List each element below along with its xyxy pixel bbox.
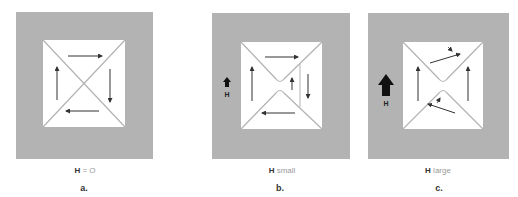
panel-b: H: [212, 13, 350, 159]
caption-text: = O: [80, 166, 95, 175]
panel-c: H: [368, 13, 509, 159]
caption-c: H large: [425, 166, 451, 175]
panel-a: [16, 12, 153, 159]
caption-text: large: [431, 166, 451, 175]
panel-letter-c: c.: [435, 183, 443, 193]
caption-text: small: [274, 166, 295, 175]
caption-a: H = O: [74, 166, 95, 175]
field-label: H: [224, 91, 229, 98]
caption-b: H small: [269, 166, 296, 175]
field-label: H: [383, 100, 388, 107]
panel-letter-b: b.: [276, 183, 284, 193]
panel-letter-a: a.: [80, 183, 88, 193]
